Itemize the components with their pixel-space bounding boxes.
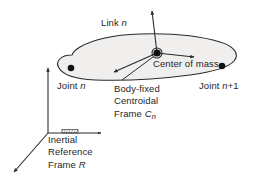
kinematics-diagram: Link n Center of mass Joint n Joint n+1 … xyxy=(0,0,265,180)
center-of-mass-marker xyxy=(153,49,160,56)
joint-n-label: Joint n xyxy=(57,80,86,92)
body-fixed-frame-label: Body-fixed Centroidal Frame Cn xyxy=(114,83,160,123)
body-fixed-line-2: Centroidal xyxy=(114,95,160,107)
link-label: Link n xyxy=(101,17,127,29)
joint-n-marker xyxy=(68,65,75,72)
joint-n-plus-1-marker xyxy=(219,63,226,70)
inertial-line-2: Reference xyxy=(48,146,93,158)
inertial-line-1: Inertial xyxy=(48,134,93,146)
inertial-frame-label: Inertial Reference Frame R xyxy=(48,134,93,171)
inertial-axis-down-left xyxy=(14,133,48,172)
body-fixed-line-3: Frame Cn xyxy=(114,108,160,123)
body-fixed-line-1: Body-fixed xyxy=(114,83,160,95)
center-of-mass-label: Center of mass xyxy=(153,58,219,70)
ground-hatch-icon xyxy=(62,130,78,134)
joint-n-plus-1-label: Joint n+1 xyxy=(199,80,239,92)
inertial-line-3: Frame R xyxy=(48,159,93,171)
